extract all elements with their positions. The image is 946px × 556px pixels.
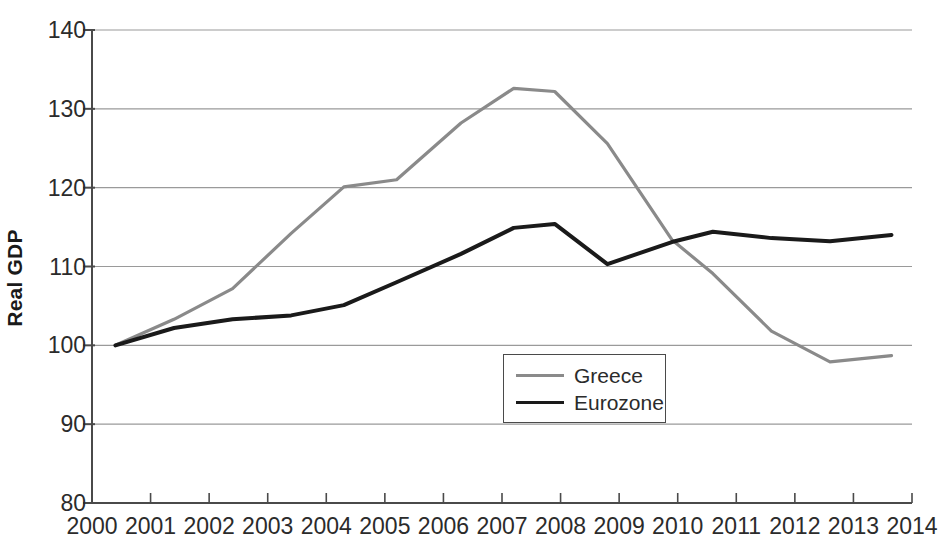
legend-label-greece: Greece	[574, 364, 643, 388]
chart-container: Real GDP 8090100110120130140 20002001200…	[0, 0, 946, 556]
x-tick-label: 2006	[418, 513, 469, 540]
x-tick-label: 2010	[652, 513, 703, 540]
x-tick-label: 2005	[359, 513, 410, 540]
x-tick-label: 2000	[66, 513, 117, 540]
x-tick-label: 2003	[242, 513, 293, 540]
x-tick-label: 2001	[125, 513, 176, 540]
legend-item-eurozone[interactable]: Eurozone	[504, 389, 665, 416]
legend-label-eurozone: Eurozone	[574, 391, 664, 415]
x-tick-label: 2002	[184, 513, 235, 540]
x-axis-tick-labels: 2000200120022003200420052006200720082009…	[0, 0, 946, 556]
legend-line-icon-greece	[516, 374, 564, 377]
x-tick-label: 2011	[712, 513, 761, 540]
x-tick-label: 2004	[301, 513, 352, 540]
legend-line-icon-eurozone	[516, 401, 564, 404]
x-tick-label: 2014	[886, 513, 937, 540]
legend-item-greece[interactable]: Greece	[504, 362, 665, 389]
legend: Greece Eurozone	[503, 354, 666, 423]
x-tick-label: 2009	[594, 513, 645, 540]
x-tick-label: 2012	[769, 513, 820, 540]
x-tick-label: 2013	[828, 513, 879, 540]
x-tick-label: 2007	[476, 513, 527, 540]
x-tick-label: 2008	[535, 513, 586, 540]
